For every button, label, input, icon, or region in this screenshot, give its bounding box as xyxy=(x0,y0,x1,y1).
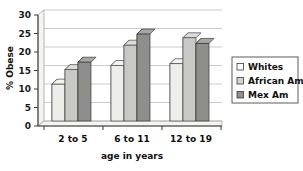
bar-front xyxy=(78,62,91,121)
y-tick-label-10: 10 xyxy=(18,84,31,94)
y-axis-title: % Obese xyxy=(5,46,15,90)
bar-front xyxy=(170,64,183,121)
obesity-bar-chart: 30 25 20 15 10 5 0 % Obese xyxy=(0,0,303,171)
chart-canvas: 30 25 20 15 10 5 0 % Obese xyxy=(0,0,303,171)
plot-side-wall xyxy=(38,10,44,126)
white-swatch-icon xyxy=(237,64,244,71)
bar-front xyxy=(65,70,78,121)
x-axis-title: age in years xyxy=(101,151,163,161)
y-tick-label-20: 20 xyxy=(18,47,31,57)
y-tick-label-25: 25 xyxy=(18,29,31,39)
legend-label-whites: Whites xyxy=(248,62,283,72)
x-tick-label-0: 2 to 5 xyxy=(58,134,87,144)
y-tick-label-30: 30 xyxy=(18,10,31,20)
plot-floor xyxy=(38,121,222,126)
bar-front xyxy=(137,34,150,121)
legend-label-african-am: African Am xyxy=(248,76,303,86)
y-axis: 30 25 20 15 10 5 0 xyxy=(18,10,38,131)
y-tick-label-0: 0 xyxy=(25,121,31,131)
dark-gray-swatch-icon xyxy=(237,92,244,99)
y-tick-label-5: 5 xyxy=(25,103,31,113)
light-gray-swatch-icon xyxy=(237,78,244,85)
x-tick-label-1: 6 to 11 xyxy=(114,134,150,144)
y-tick-label-15: 15 xyxy=(18,66,31,76)
x-tick-label-2: 12 to 19 xyxy=(170,134,212,144)
bar-front xyxy=(111,66,124,122)
bar-front xyxy=(124,45,137,121)
x-axis-ticks xyxy=(44,126,221,130)
bar-front xyxy=(196,43,209,121)
bar-front xyxy=(52,84,65,121)
legend: Whites African Am Mex Am xyxy=(232,57,303,103)
legend-label-mex-am: Mex Am xyxy=(248,90,288,100)
bar-front xyxy=(183,38,196,121)
